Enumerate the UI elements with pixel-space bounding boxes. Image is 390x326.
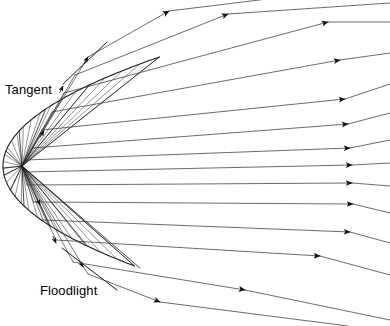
incident-upper-2-arrow: [60, 86, 63, 92]
reflected-rays-group: [24, 0, 390, 326]
incident-marked-1: [22, 85, 89, 166]
focus-point: [21, 165, 23, 167]
reflected-ray-8-tail: [352, 163, 390, 165]
reflected-ray-9-head: [27, 183, 352, 185]
focus-spoke-20: [15, 166, 22, 196]
focus-spoke-7: [22, 106, 51, 166]
reflected-ray-2-head: [75, 14, 228, 75]
reflected-ray-6-head: [33, 124, 348, 148]
focus-spoke-18: [7, 166, 22, 182]
reflected-ray-7-head: [26, 148, 350, 160]
reflected-ray-12-head: [56, 240, 320, 256]
incident-marked-12: [22, 166, 135, 266]
figure-canvas: Tangent Floodlight: [0, 0, 390, 326]
incident-ray-11: [22, 166, 43, 220]
incident-ray-14: [22, 166, 88, 274]
reflected-ray-6-tail: [348, 113, 390, 124]
incident-marked-10: [22, 166, 87, 246]
reflected-ray-2-tail: [228, 3, 390, 14]
reflected-ray-7-tail: [350, 140, 390, 148]
reflected-ray-3-head: [64, 22, 328, 93]
reflected-ray-12-tail: [320, 256, 390, 275]
focus-spoke-6: [22, 99, 62, 166]
incident-marked-4: [6, 151, 22, 166]
reflected-ray-14-head: [88, 274, 160, 302]
incident-marked-7: [11, 166, 22, 190]
focus-spoke-5: [22, 92, 75, 166]
reflected-ray-5-tail: [345, 84, 390, 99]
reflected-ray-10-head: [34, 202, 354, 204]
reflected-ray-9-tail: [352, 183, 390, 186]
incident-ray-13: [22, 166, 73, 262]
parabolic-reflector-diagram: [0, 0, 390, 326]
reflected-ray-11-tail: [350, 232, 390, 243]
reflected-ray-4-tail: [340, 53, 390, 60]
reflected-ray-10-tail: [353, 204, 390, 213]
reflected-ray-8-head: [24, 165, 352, 172]
floodlight-label: Floodlight: [40, 284, 97, 298]
focus-spoke-25: [22, 166, 59, 231]
tangent-lines-group: [62, 42, 117, 290]
tangent-upper: [63, 42, 107, 84]
reflected-ray-1-head: [88, 11, 169, 57]
tangent-label: Tangent: [5, 83, 52, 97]
